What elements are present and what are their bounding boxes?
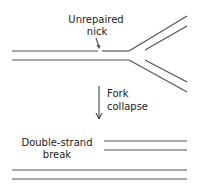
dsb-label-line1: Double-strand xyxy=(21,137,92,148)
dsb-label-line2: break xyxy=(43,149,72,160)
fork-label-line1: Fork xyxy=(107,88,129,99)
intact-duplex xyxy=(12,170,187,179)
down-arrow-icon xyxy=(96,86,102,119)
fork-arm-bottom-inner xyxy=(145,60,187,82)
fork-arm-bottom-outer xyxy=(129,60,187,92)
fork-arm-top-outer xyxy=(129,16,187,51)
nick-label-line1: Unrepaired xyxy=(68,14,123,25)
fork-collapse-diagram: Unrepaired nick Fork collapse Double-str… xyxy=(0,0,201,186)
broken-duplex xyxy=(104,141,187,150)
nick-label-line2: nick xyxy=(87,26,108,37)
nick-pointer-arrow-icon xyxy=(96,38,100,48)
fork-label-line2: collapse xyxy=(107,101,148,112)
